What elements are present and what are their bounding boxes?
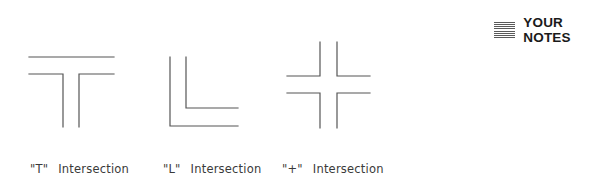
t-label: Intersection (58, 162, 129, 176)
l-intersection-diagram (170, 57, 238, 126)
l-label: Intersection (191, 162, 262, 176)
l-intersection-caption: "L"Intersection (163, 162, 261, 176)
plus-symbol: "+" (282, 162, 303, 176)
t-symbol: "T" (30, 162, 48, 176)
plus-intersection-caption: "+"Intersection (282, 162, 384, 176)
l-symbol: "L" (163, 162, 181, 176)
plus-label: Intersection (313, 162, 384, 176)
plus-intersection-diagram (287, 42, 370, 128)
t-intersection-caption: "T"Intersection (30, 162, 129, 176)
t-intersection-diagram (29, 57, 114, 127)
